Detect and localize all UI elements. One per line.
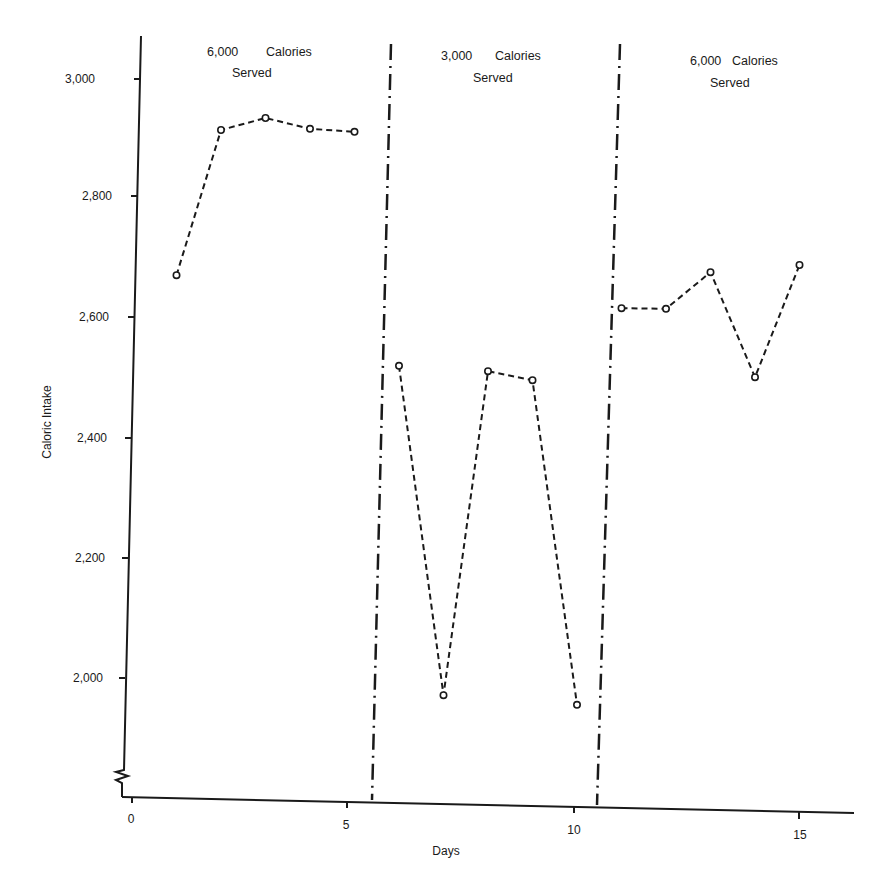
phase-label-1: 6,000 Calories Served	[207, 45, 312, 80]
phase-label-3: 6,000 Calories Served	[690, 54, 778, 90]
data-point-day-8	[485, 368, 491, 374]
data-point-day-7	[440, 692, 446, 698]
y-axis	[116, 36, 141, 797]
x-tick-label-0: 0	[128, 812, 135, 826]
phase-3-served: Served	[710, 76, 750, 90]
x-tick-label-15: 15	[793, 828, 807, 842]
data-point-day-1	[173, 272, 179, 278]
phase-2-line	[399, 366, 577, 705]
phase-1-line	[177, 118, 355, 275]
data-point-day-15	[796, 262, 802, 268]
phase-3-line	[622, 265, 800, 377]
data-point-day-5	[351, 129, 357, 135]
phase-2-served: Served	[473, 71, 513, 85]
y-tick-label-2800: 2,800	[82, 189, 112, 203]
phase-1-amount: 6,000	[207, 45, 238, 59]
y-tick-label-2600: 2,600	[79, 310, 109, 324]
phase-divider-1	[372, 44, 391, 800]
x-axis-title: Days	[432, 844, 459, 858]
phase-2-amount: 3,000	[441, 49, 472, 63]
data-point-day-2	[218, 127, 224, 133]
caloric-intake-chart: 3,000 2,800 2,600 2,400 2,200 2,000 Calo…	[0, 0, 889, 892]
y-axis-title: Caloric Intake	[40, 385, 54, 459]
x-axis	[122, 797, 854, 819]
phase-3-amount: 6,000	[690, 54, 721, 68]
data-point-day-11	[618, 305, 624, 311]
x-tick-label-5: 5	[343, 818, 350, 832]
data-point-day-4	[307, 126, 313, 132]
data-point-day-12	[663, 306, 669, 312]
data-point-day-10	[574, 702, 580, 708]
y-tick-label-2000: 2,000	[73, 671, 103, 685]
phase-3-unit: Calories	[732, 54, 778, 68]
y-tick-label-3000: 3,000	[65, 72, 95, 86]
phase-divider-2	[597, 44, 620, 805]
data-series	[173, 115, 802, 708]
data-point-day-3	[262, 115, 268, 121]
data-point-day-9	[529, 377, 535, 383]
phase-1-served: Served	[232, 66, 272, 80]
phase-label-2: 3,000 Calories Served	[441, 49, 541, 85]
data-point-day-13	[707, 269, 713, 275]
data-point-day-14	[752, 374, 758, 380]
x-tick-label-10: 10	[567, 823, 581, 837]
phase-1-unit: Calories	[266, 45, 312, 59]
y-tick-label-2400: 2,400	[77, 431, 107, 445]
phase-2-unit: Calories	[495, 49, 541, 63]
data-point-day-6	[396, 363, 402, 369]
y-tick-label-2200: 2,200	[75, 551, 105, 565]
